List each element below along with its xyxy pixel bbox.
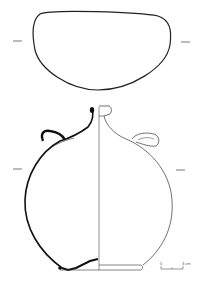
pottery-drawing [0,0,201,281]
scale-bar [161,266,183,269]
section-view [13,106,185,270]
scale-end-label: 3 cm [182,261,191,266]
scale-start-label: 0 [160,261,162,266]
top-view [13,11,190,90]
